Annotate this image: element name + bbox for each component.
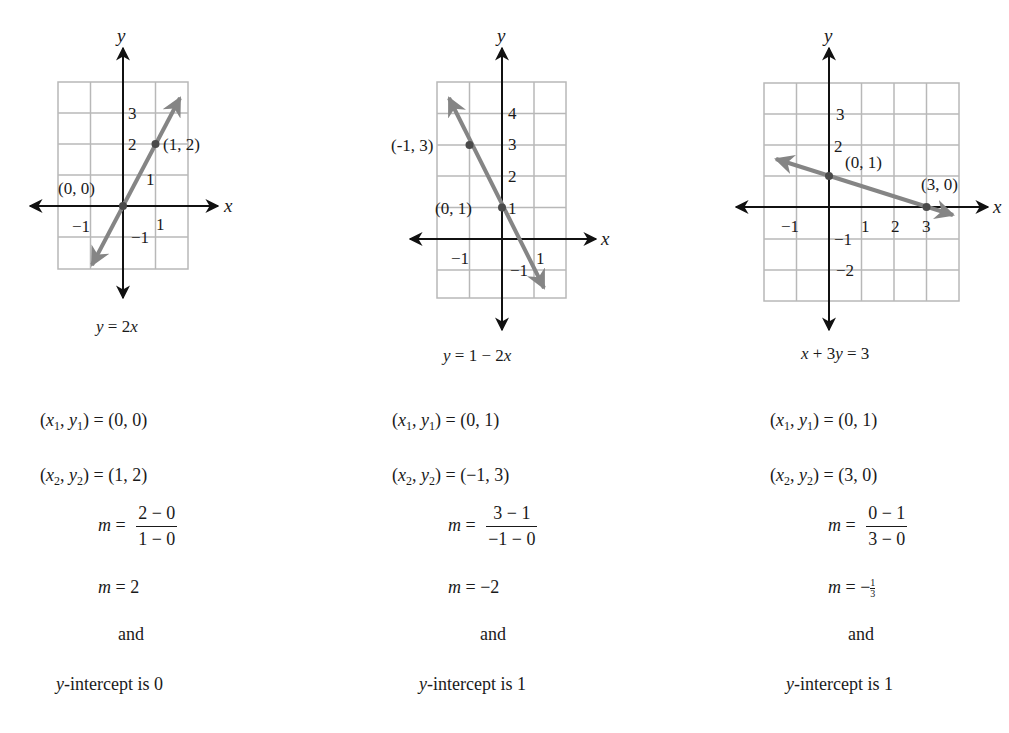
caption-2: y = 1 − 2x (443, 346, 511, 366)
point2-row: (x2, y2) = (−1, 3) (392, 465, 509, 486)
caption-tail: = 3 (843, 344, 870, 363)
tick-x-1: 1 (861, 217, 870, 236)
caption-lhs: y (443, 346, 451, 365)
point-label-0-1: (0, 1) (845, 153, 882, 172)
point1-row: (x1, y1) = (0, 0) (40, 410, 147, 431)
slope-fraction: 3 − 1−1 − 0 (486, 503, 537, 550)
point-label-0-1: (0, 1) (435, 199, 472, 218)
tick-y-neg1: −1 (834, 230, 852, 249)
slope-formula-row: m = 0 − 13 − 0 (828, 503, 907, 550)
point-label-1-2: (1, 2) (163, 135, 200, 154)
slope-formula-row: m = 2 − 01 − 0 (98, 503, 177, 550)
and-text: and (480, 624, 506, 645)
slope-value-row: m = 2 (98, 577, 139, 598)
caption-1: y = 2x (96, 317, 138, 337)
point-label-neg1-3: (-1, 3) (391, 136, 433, 155)
tick-x-neg1: −1 (781, 217, 799, 236)
tick-y-1: 1 (146, 170, 155, 189)
tick-y-2: 2 (834, 137, 843, 156)
slope-formula-row: m = 3 − 1−1 − 0 (448, 503, 537, 550)
x-axis-label-1: x (223, 195, 233, 216)
slope-fraction: 0 − 13 − 0 (866, 503, 907, 550)
caption-var: x (504, 346, 512, 365)
y-axis-label-3: y (822, 25, 833, 46)
caption-var: x (130, 317, 138, 336)
tick-x-3: 3 (922, 217, 931, 236)
tick-y-2: 2 (508, 167, 517, 186)
slope-small-fraction: 13 (870, 578, 875, 599)
x-axis-label-3: x (992, 196, 1002, 217)
point-0-1 (825, 172, 833, 180)
tick-y-3: 3 (836, 105, 845, 124)
slope-fraction: 2 − 01 − 0 (136, 503, 177, 550)
caption-lhs: x (801, 344, 809, 363)
caption-3: x + 3y = 3 (801, 344, 869, 364)
tick-x-neg1: −1 (451, 249, 469, 268)
point-label-0-0: (0, 0) (58, 179, 95, 198)
point-1-2 (152, 140, 160, 148)
point1-row: (x1, y1) = (0, 1) (770, 410, 877, 431)
tick-y-1: 1 (508, 199, 517, 218)
point1-row: (x1, y1) = (0, 1) (392, 410, 499, 431)
point2-row: (x2, y2) = (3, 0) (770, 465, 877, 486)
tick-y-neg2: −2 (836, 261, 854, 280)
intercept-row: y-intercept is 1 (786, 674, 893, 695)
point-label-3-0: (3, 0) (921, 175, 958, 194)
point-0-1 (498, 204, 506, 212)
caption-rhs: + 3 (809, 344, 836, 363)
tick-y-neg1: −1 (131, 228, 149, 247)
tick-y-2: 2 (128, 135, 137, 154)
y-axis-label-2: y (495, 25, 506, 46)
y-axis-label-1: y (115, 25, 126, 46)
caption-lhs: y (96, 317, 104, 336)
tick-x-1: 1 (156, 215, 165, 234)
intercept-row: y-intercept is 0 (56, 674, 163, 695)
point-0-0 (119, 202, 127, 210)
tick-x-1: 1 (536, 249, 545, 268)
point-3-0 (923, 203, 931, 211)
tick-x-neg1: −1 (72, 217, 90, 236)
intercept-row: y-intercept is 1 (419, 674, 526, 695)
caption-rhs: = 1 − 2 (451, 346, 504, 365)
slope-value-row: m = −2 (448, 577, 499, 598)
point2-row: (x2, y2) = (1, 2) (40, 465, 147, 486)
point-neg1-3 (466, 141, 474, 149)
tick-y-3: 3 (508, 135, 517, 154)
tick-y-neg1: −1 (510, 261, 528, 280)
tick-y-4: 4 (508, 104, 517, 123)
and-text: and (848, 624, 874, 645)
caption-var: y (835, 344, 843, 363)
and-text: and (118, 624, 144, 645)
x-axis-label-2: x (600, 228, 610, 249)
tick-x-2: 2 (891, 217, 900, 236)
slope-value-row: m = −13 (828, 577, 875, 599)
tick-y-3: 3 (128, 104, 137, 123)
caption-rhs: = 2 (104, 317, 131, 336)
